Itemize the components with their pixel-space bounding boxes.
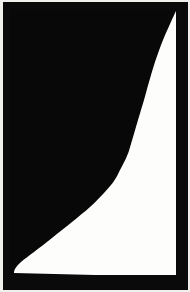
figure-canvas: Abstract high-contrast black and white c… xyxy=(0,0,190,292)
abstract-curve-illustration xyxy=(0,0,190,292)
